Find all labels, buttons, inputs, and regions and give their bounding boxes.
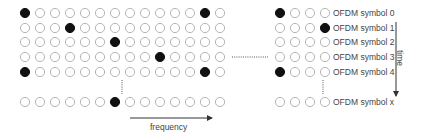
data-subcarrier: [125, 97, 134, 106]
data-subcarrier: [80, 52, 89, 61]
time-label: time: [395, 50, 405, 66]
data-subcarrier: [305, 23, 314, 32]
data-subcarrier: [290, 52, 299, 61]
data-subcarrier: [35, 8, 44, 17]
data-subcarrier: [155, 97, 164, 106]
data-subcarrier: [35, 67, 44, 76]
data-subcarrier: [215, 52, 224, 61]
ofdm-symbol-label: OFDM symbol 3: [333, 52, 394, 62]
data-subcarrier: [35, 97, 44, 106]
data-subcarrier: [65, 37, 74, 46]
data-subcarrier: [305, 97, 314, 106]
data-subcarrier: [200, 37, 209, 46]
data-subcarrier: [215, 23, 224, 32]
data-subcarrier: [35, 23, 44, 32]
data-subcarrier: [275, 97, 284, 106]
data-subcarrier: [320, 67, 329, 76]
data-subcarrier: [275, 23, 284, 32]
data-subcarrier: [170, 23, 179, 32]
data-subcarrier: [185, 52, 194, 61]
data-subcarrier: [215, 67, 224, 76]
data-subcarrier: [140, 67, 149, 76]
data-subcarrier: [80, 97, 89, 106]
data-subcarrier: [50, 23, 59, 32]
pilot-subcarrier: [275, 8, 284, 17]
data-subcarrier: [80, 67, 89, 76]
data-subcarrier: [80, 37, 89, 46]
data-subcarrier: [110, 52, 119, 61]
data-subcarrier: [170, 37, 179, 46]
data-subcarrier: [95, 97, 104, 106]
data-subcarrier: [305, 52, 314, 61]
data-subcarrier: [185, 8, 194, 17]
data-subcarrier: [65, 8, 74, 17]
data-subcarrier: [140, 23, 149, 32]
data-subcarrier: [125, 67, 134, 76]
pilot-subcarrier: [275, 67, 284, 76]
data-subcarrier: [155, 8, 164, 17]
data-subcarrier: [320, 37, 329, 46]
data-subcarrier: [215, 97, 224, 106]
data-subcarrier: [185, 97, 194, 106]
data-subcarrier: [65, 67, 74, 76]
pilot-subcarrier: [20, 67, 29, 76]
ofdm-symbol-label: OFDM symbol 1: [333, 23, 394, 33]
data-subcarrier: [320, 97, 329, 106]
data-subcarrier: [290, 8, 299, 17]
pilot-subcarrier: [65, 23, 74, 32]
data-subcarrier: [125, 8, 134, 17]
pilot-subcarrier: [20, 8, 29, 17]
data-subcarrier: [125, 23, 134, 32]
data-subcarrier: [215, 37, 224, 46]
data-subcarrier: [110, 8, 119, 17]
data-subcarrier: [290, 37, 299, 46]
ofdm-symbol-label: OFDM symbol x: [333, 97, 394, 107]
pilot-subcarrier: [200, 67, 209, 76]
data-subcarrier: [50, 67, 59, 76]
data-subcarrier: [50, 97, 59, 106]
ofdm-symbol-label: OFDM symbol 4: [333, 67, 394, 77]
data-subcarrier: [80, 8, 89, 17]
data-subcarrier: [20, 37, 29, 46]
data-subcarrier: [140, 52, 149, 61]
data-subcarrier: [170, 97, 179, 106]
data-subcarrier: [95, 23, 104, 32]
data-subcarrier: [290, 23, 299, 32]
data-subcarrier: [20, 23, 29, 32]
ofdm-symbol-label: OFDM symbol 0: [333, 8, 394, 18]
data-subcarrier: [155, 67, 164, 76]
data-subcarrier: [110, 67, 119, 76]
data-subcarrier: [95, 52, 104, 61]
data-subcarrier: [290, 97, 299, 106]
data-subcarrier: [65, 52, 74, 61]
data-subcarrier: [125, 37, 134, 46]
data-subcarrier: [185, 67, 194, 76]
data-subcarrier: [170, 8, 179, 17]
data-subcarrier: [95, 37, 104, 46]
data-subcarrier: [35, 37, 44, 46]
data-subcarrier: [170, 67, 179, 76]
data-subcarrier: [200, 97, 209, 106]
data-subcarrier: [155, 23, 164, 32]
data-subcarrier: [155, 37, 164, 46]
data-subcarrier: [35, 52, 44, 61]
ofdm-diagram: OFDM symbol 0OFDM symbol 1OFDM symbol 2O…: [0, 0, 422, 133]
data-subcarrier: [50, 8, 59, 17]
pilot-subcarrier: [155, 52, 164, 61]
data-subcarrier: [200, 52, 209, 61]
data-subcarrier: [95, 8, 104, 17]
data-subcarrier: [305, 67, 314, 76]
data-subcarrier: [140, 8, 149, 17]
data-subcarrier: [200, 23, 209, 32]
data-subcarrier: [320, 8, 329, 17]
data-subcarrier: [305, 37, 314, 46]
pilot-subcarrier: [110, 37, 119, 46]
data-subcarrier: [65, 97, 74, 106]
data-subcarrier: [95, 67, 104, 76]
data-subcarrier: [185, 23, 194, 32]
data-subcarrier: [125, 52, 134, 61]
data-subcarrier: [20, 97, 29, 106]
ofdm-symbol-label: OFDM symbol 2: [333, 37, 394, 47]
data-subcarrier: [110, 23, 119, 32]
data-subcarrier: [140, 37, 149, 46]
